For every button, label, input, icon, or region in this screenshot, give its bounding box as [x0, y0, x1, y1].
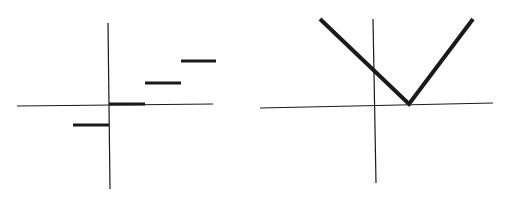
- absolute-value-graph: [260, 19, 493, 183]
- x-axis: [260, 103, 493, 108]
- graphs-canvas: [0, 0, 509, 201]
- step-segments: [73, 61, 216, 125]
- v-curve: [320, 19, 473, 104]
- y-axis: [108, 23, 110, 189]
- step-function-graph: [17, 23, 216, 189]
- y-axis: [373, 19, 376, 183]
